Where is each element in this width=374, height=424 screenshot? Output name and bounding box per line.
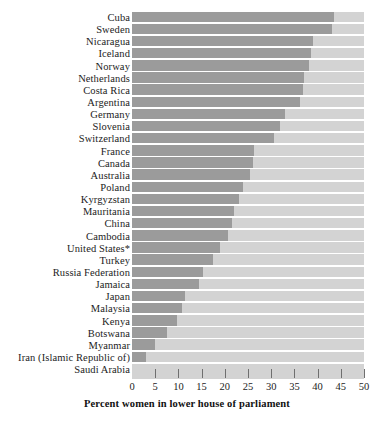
- bar: [132, 12, 334, 22]
- chart-row: Malaysia: [0, 302, 374, 314]
- category-label: Slovenia: [92, 121, 130, 132]
- category-label: Argentina: [87, 97, 130, 108]
- bar-track: [132, 133, 364, 143]
- category-label: Kyrgyzstan: [81, 194, 130, 205]
- bar-track: [132, 84, 364, 94]
- bar-track: [132, 121, 364, 131]
- category-label: Mauritania: [83, 206, 130, 217]
- chart-row: Iceland: [0, 47, 374, 59]
- category-label: Russia Federation: [53, 267, 130, 278]
- bar: [132, 218, 232, 228]
- bar: [132, 169, 250, 179]
- category-label: Japan: [106, 291, 130, 302]
- chart-row: United States*: [0, 242, 374, 254]
- axis-tick: [202, 369, 203, 378]
- category-label: Myanmar: [88, 339, 130, 350]
- bar-track: [132, 157, 364, 167]
- bar-track: [132, 48, 364, 58]
- chart-row: Kenya: [0, 315, 374, 327]
- category-label: United States*: [67, 242, 130, 253]
- bar-track: [132, 254, 364, 264]
- bar-track: [132, 182, 364, 192]
- chart-row: Sweden: [0, 23, 374, 35]
- category-label: France: [101, 145, 130, 156]
- chart-row: Slovenia: [0, 120, 374, 132]
- category-label: Norway: [96, 60, 130, 71]
- chart-row: Japan: [0, 290, 374, 302]
- bar: [132, 182, 243, 192]
- bar-track: [132, 24, 364, 34]
- category-label: Nicaragua: [86, 36, 130, 47]
- category-label: Saudi Arabia: [74, 364, 130, 375]
- chart-row: Botswana: [0, 327, 374, 339]
- bar: [132, 145, 254, 155]
- bar: [132, 242, 220, 252]
- bar: [132, 352, 146, 362]
- bar-track: [132, 12, 364, 22]
- chart-row: Iran (Islamic Republic of): [0, 351, 374, 363]
- chart-row: France: [0, 145, 374, 157]
- bar-track: [132, 267, 364, 277]
- bar-track: [132, 97, 364, 107]
- category-label: Poland: [100, 182, 130, 193]
- category-label: Jamaica: [95, 279, 130, 290]
- axis-tick: [341, 369, 342, 378]
- category-label: Canada: [98, 157, 130, 168]
- axis-tick-label: 30: [266, 380, 277, 393]
- bar: [132, 72, 304, 82]
- axis-tick-label: 5: [153, 380, 158, 393]
- bar: [132, 291, 185, 301]
- category-label: Netherlands: [78, 72, 130, 83]
- axis-tick-label: 45: [336, 380, 347, 393]
- chart-row: Australia: [0, 169, 374, 181]
- bar-track: [132, 339, 364, 349]
- chart-row: Jamaica: [0, 278, 374, 290]
- bar: [132, 303, 182, 313]
- category-label: China: [104, 218, 130, 229]
- bar-track: [132, 327, 364, 337]
- category-label: Germany: [90, 109, 130, 120]
- bar: [132, 48, 311, 58]
- category-label: Kenya: [102, 315, 130, 326]
- bar: [132, 279, 199, 289]
- category-label: Iceland: [98, 48, 130, 59]
- bar-track: [132, 218, 364, 228]
- x-axis-title: Percent women in lower house of parliame…: [0, 398, 374, 409]
- bar: [132, 254, 213, 264]
- category-label: Sweden: [96, 24, 130, 35]
- bar: [132, 97, 300, 107]
- chart-row: Netherlands: [0, 72, 374, 84]
- bar-track: [132, 194, 364, 204]
- axis-tick-label: 0: [129, 380, 134, 393]
- bar: [132, 133, 274, 143]
- axis-tick: [294, 369, 295, 378]
- axis-tick-label: 40: [312, 380, 323, 393]
- chart-row: Mauritania: [0, 205, 374, 217]
- category-label: Cuba: [107, 12, 130, 23]
- axis-tick: [271, 369, 272, 378]
- category-label: Turkey: [99, 254, 130, 265]
- axis-tick: [155, 369, 156, 378]
- category-label: Switzerland: [79, 133, 130, 144]
- axis-tick-label: 10: [173, 380, 184, 393]
- axis-tick: [225, 369, 226, 378]
- bar-track: [132, 109, 364, 119]
- chart-row: Kyrgyzstan: [0, 193, 374, 205]
- bar-track: [132, 206, 364, 216]
- chart-row: Cuba: [0, 11, 374, 23]
- axis-tick: [178, 369, 179, 378]
- chart-row: Myanmar: [0, 339, 374, 351]
- bar: [132, 24, 332, 34]
- chart-row: Cambodia: [0, 230, 374, 242]
- category-label: Cambodia: [86, 230, 130, 241]
- bar-track: [132, 169, 364, 179]
- chart-row: Costa Rica: [0, 84, 374, 96]
- bar: [132, 327, 167, 337]
- bar: [132, 230, 228, 240]
- bar-track: [132, 352, 364, 362]
- x-axis: [132, 368, 364, 379]
- axis-tick: [318, 369, 319, 378]
- category-label: Malaysia: [91, 303, 130, 314]
- chart-row: Argentina: [0, 96, 374, 108]
- axis-tick-label: 35: [289, 380, 300, 393]
